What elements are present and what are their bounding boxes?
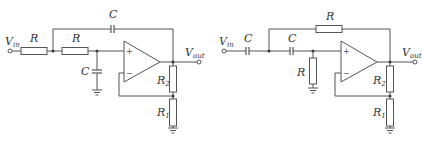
series-resistor-2-label: R bbox=[71, 32, 80, 45]
vin-terminal bbox=[8, 49, 12, 53]
vout-terminal bbox=[413, 60, 417, 64]
series-resistor-2 bbox=[62, 48, 88, 55]
lowpass-circuit: Vin R R C C + − Vout bbox=[5, 8, 205, 133]
vin-label: Vin bbox=[5, 35, 20, 49]
r2-label: R2 bbox=[156, 74, 170, 88]
shunt-capacitor-label: C bbox=[81, 65, 90, 78]
resistor-r1 bbox=[387, 99, 394, 126]
r1-label: R1 bbox=[156, 106, 170, 120]
resistor-r2 bbox=[387, 66, 394, 92]
vout-terminal bbox=[197, 60, 201, 64]
plus-input-sign: + bbox=[126, 47, 133, 56]
series-capacitor-2-label: C bbox=[288, 32, 297, 45]
ground-icon bbox=[168, 128, 178, 133]
shunt-resistor bbox=[310, 58, 317, 84]
ground-icon bbox=[385, 128, 395, 133]
plus-input-sign: + bbox=[343, 47, 350, 56]
minus-input-sign: − bbox=[343, 69, 350, 78]
minus-input-sign: − bbox=[126, 69, 133, 78]
vin-label: Vin bbox=[219, 35, 234, 49]
highpass-circuit: Vin C C R R + − Vout bbox=[219, 10, 422, 133]
circuit-diagrams: Vin R R C C + − Vout bbox=[0, 0, 422, 146]
series-capacitor-1-label: C bbox=[244, 32, 253, 45]
feedback-resistor bbox=[316, 26, 342, 33]
feedback-resistor-label: R bbox=[325, 10, 334, 23]
resistor-r2 bbox=[170, 66, 177, 92]
shunt-resistor-label: R bbox=[296, 66, 305, 79]
r1-label: R1 bbox=[372, 106, 386, 120]
feedback-capacitor-label: C bbox=[109, 8, 118, 21]
vout-label: Vout bbox=[402, 46, 422, 60]
vin-terminal bbox=[222, 49, 226, 53]
r2-label: R2 bbox=[372, 74, 386, 88]
resistor-r1 bbox=[170, 99, 177, 126]
series-resistor-1-label: R bbox=[29, 32, 38, 45]
ground-icon bbox=[92, 90, 102, 95]
series-resistor-1 bbox=[21, 48, 47, 55]
vout-label: Vout bbox=[185, 46, 205, 60]
ground-icon bbox=[308, 88, 318, 93]
